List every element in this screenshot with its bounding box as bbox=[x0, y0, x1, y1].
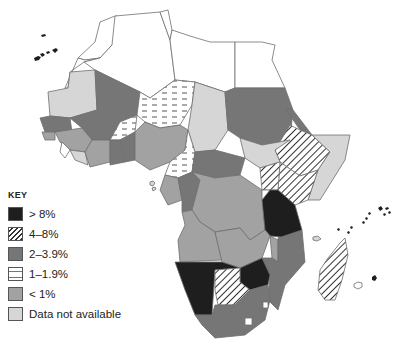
legend-label: 4–8% bbox=[29, 228, 58, 240]
swatch-mid-gray bbox=[8, 287, 23, 301]
swatch-dark-gray bbox=[8, 247, 23, 261]
swatch-black bbox=[8, 207, 23, 221]
comoros bbox=[337, 226, 353, 234]
legend-title: KEY bbox=[8, 190, 121, 200]
swatch-dashes bbox=[8, 267, 23, 281]
legend-item-gt8: > 8% bbox=[8, 204, 121, 224]
legend-item-na: Data not available bbox=[8, 304, 121, 324]
legend-label: > 8% bbox=[29, 208, 56, 220]
egypt bbox=[235, 42, 285, 88]
cape-verde bbox=[152, 187, 156, 191]
legend-label: 1–1.9% bbox=[29, 268, 68, 280]
legend-label: 2–3.9% bbox=[29, 248, 68, 260]
swatch-light-gray bbox=[8, 307, 23, 321]
mayotte bbox=[313, 236, 321, 241]
reunion bbox=[354, 282, 362, 289]
sao-tome bbox=[150, 181, 155, 186]
legend-item-1-1-9: 1–1.9% bbox=[8, 264, 121, 284]
mauritius bbox=[372, 275, 377, 281]
chad bbox=[188, 82, 228, 152]
swaziland bbox=[263, 302, 268, 308]
lesotho bbox=[245, 318, 252, 325]
canary-islands bbox=[34, 34, 58, 61]
swatch-hatch bbox=[8, 227, 23, 241]
legend-item-lt1: < 1% bbox=[8, 284, 121, 304]
legend: KEY > 8% 4–8% 2–3.9% 1–1.9% < 1% Data no… bbox=[8, 190, 121, 324]
legend-label: Data not available bbox=[29, 308, 121, 320]
legend-item-2-3-9: 2–3.9% bbox=[8, 244, 121, 264]
guinea-bissau bbox=[42, 132, 55, 140]
seychelles bbox=[362, 206, 391, 224]
legend-item-4-8: 4–8% bbox=[8, 224, 121, 244]
senegal bbox=[40, 116, 72, 132]
mauritania bbox=[48, 70, 97, 118]
madagascar bbox=[318, 238, 348, 300]
legend-label: < 1% bbox=[29, 288, 56, 300]
